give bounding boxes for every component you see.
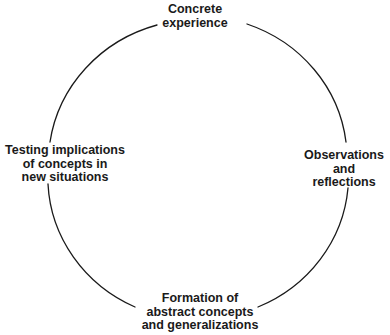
node-testing-implications: Testing implications of concepts in new … <box>0 144 130 185</box>
arc-bottom-to-left <box>48 184 135 307</box>
node-concrete-experience: Concrete experience <box>130 3 260 30</box>
node-abstract-concepts: Formation of abstract concepts and gener… <box>110 292 290 333</box>
node-line: Observations <box>298 149 390 163</box>
node-observations-reflections: Observations and reflections <box>298 149 390 190</box>
node-line: experience <box>130 17 260 31</box>
node-line: new situations <box>0 171 130 185</box>
arc-left-to-top <box>50 25 157 142</box>
node-line: Testing implications <box>0 144 130 158</box>
arc-right-to-bottom <box>258 188 348 307</box>
node-line: Concrete <box>130 3 260 17</box>
node-line: abstract concepts <box>110 306 290 320</box>
node-line: of concepts in <box>0 158 130 172</box>
node-line: and <box>298 163 390 177</box>
node-line: and generalizations <box>110 319 290 333</box>
arc-top-to-right <box>247 24 346 142</box>
node-line: Formation of <box>110 292 290 306</box>
node-line: reflections <box>298 176 390 190</box>
